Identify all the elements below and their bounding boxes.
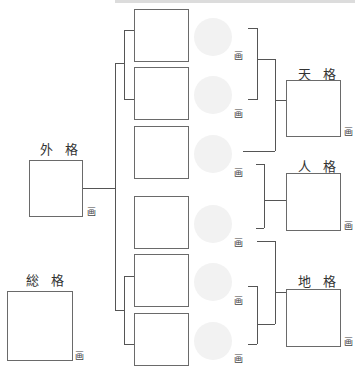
bracket-chikaku-lower xyxy=(248,344,257,345)
bracket-chikaku-mid xyxy=(257,324,275,325)
stroke-count-circle-3 xyxy=(194,135,232,173)
name-char-box-6[interactable] xyxy=(134,313,189,366)
bracket-chikaku-vertical xyxy=(257,286,258,344)
stroke-count-circle-1 xyxy=(194,18,232,56)
bracket-left-top-vertical xyxy=(124,30,125,99)
tenkaku-box3-connector xyxy=(243,151,275,152)
tenkaku-unit: 画 xyxy=(344,125,353,138)
chikaku-label: 地 格 xyxy=(298,271,340,290)
jinkaku-box[interactable] xyxy=(286,173,341,231)
bracket-jinkaku-vertical xyxy=(264,164,265,228)
stroke-count-circle-5 xyxy=(194,263,232,301)
bracket-tenkaku-mid xyxy=(257,59,275,60)
name-char-box-2[interactable] xyxy=(134,67,189,120)
gaikaku-box[interactable] xyxy=(29,160,83,217)
stroke-count-circle-4 xyxy=(194,205,232,243)
bracket-tenkaku-vertical xyxy=(257,28,258,100)
tenkaku-box[interactable] xyxy=(286,80,341,137)
stroke-count-circle-6 xyxy=(194,322,232,360)
soukaku-label: 総 格 xyxy=(26,270,68,289)
tenkaku-drop-vertical xyxy=(275,59,276,151)
jinkaku-unit: 画 xyxy=(344,219,353,232)
gaikaku-label: 外 格 xyxy=(40,139,82,158)
bracket-left-bottom-vertical xyxy=(124,276,125,344)
chikaku-rise-vertical xyxy=(275,241,276,294)
chikaku-box4-connector xyxy=(257,241,275,242)
soukaku-box[interactable] xyxy=(7,291,73,361)
main-spine-vertical xyxy=(115,63,116,310)
bracket-tenkaku-lower xyxy=(248,99,257,100)
stroke-unit-label-6: 画 xyxy=(234,352,243,365)
chikaku-box-connector xyxy=(275,292,286,293)
bracket-left-bottom-upper xyxy=(124,276,134,277)
stroke-unit-label-4: 画 xyxy=(234,236,243,249)
tenkaku-box-connector xyxy=(275,100,286,101)
cropped-header-strip xyxy=(115,0,355,3)
bracket-jinkaku-upper xyxy=(256,164,264,165)
bracket-left-top-upper xyxy=(124,30,134,31)
chikaku-unit: 画 xyxy=(344,335,353,348)
jinkaku-box-connector xyxy=(264,200,286,201)
chikaku-join-vertical xyxy=(275,292,276,324)
bracket-left-bottom-stub xyxy=(115,310,124,311)
stroke-unit-label-1: 画 xyxy=(234,49,243,62)
stroke-unit-label-3: 画 xyxy=(234,166,243,179)
bracket-left-top-lower xyxy=(124,99,134,100)
gaikaku-unit: 画 xyxy=(87,205,96,218)
name-char-box-3[interactable] xyxy=(134,126,189,179)
stroke-count-circle-2 xyxy=(194,76,232,114)
bracket-left-top-stub xyxy=(115,63,124,64)
stroke-unit-label-5: 画 xyxy=(234,294,243,307)
stroke-unit-label-2: 画 xyxy=(234,107,243,120)
name-char-box-1[interactable] xyxy=(134,9,189,62)
bracket-jinkaku-lower xyxy=(256,228,264,229)
chikaku-box[interactable] xyxy=(286,289,341,347)
bracket-chikaku-upper xyxy=(248,286,257,287)
gaikaku-connector xyxy=(83,188,115,189)
bracket-left-bottom-lower xyxy=(124,344,134,345)
soukaku-unit: 画 xyxy=(75,349,84,362)
name-char-box-4[interactable] xyxy=(134,196,189,249)
bracket-tenkaku-upper xyxy=(248,28,257,29)
name-char-box-5[interactable] xyxy=(134,254,189,307)
